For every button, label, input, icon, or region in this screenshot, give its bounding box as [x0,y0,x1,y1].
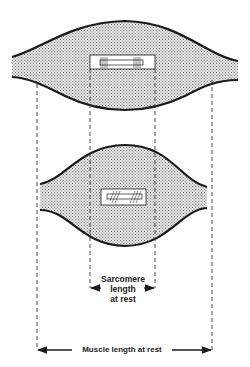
top-muscle [12,21,238,110]
sarcomere-label-line3: at rest [103,294,143,304]
muscle-diagram [0,0,250,367]
muscle-length-label: Muscle length at rest [72,345,172,355]
bottom-muscle [40,145,207,246]
sarcomere-label-line1: Sarcomere [95,274,151,284]
sarcomere-label-line2: length [103,284,143,294]
sarcomere-stretched [90,55,155,69]
sarcomere-contracted [101,189,146,205]
